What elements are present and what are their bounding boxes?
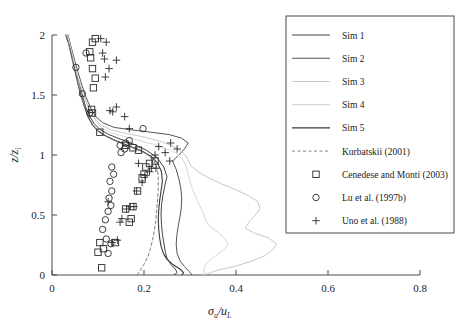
marker-square [87, 49, 93, 55]
marker-square [98, 265, 104, 271]
svg-text:z/zi: z/zi [7, 148, 23, 164]
x-tick-label: 0 [49, 282, 55, 294]
legend-item-label: Sim 1 [342, 31, 365, 41]
marker-circle [102, 217, 108, 223]
legend-item-label: Sim 2 [342, 54, 365, 64]
y-tick-label: 1 [40, 149, 46, 161]
chart-figure: 00.20.40.60.800.511.52σu/uLz/ziSim 1Sim … [0, 0, 455, 323]
x-axis-title: σu/uL [208, 304, 231, 320]
marker-square [90, 85, 96, 91]
x-tick-label: 0.8 [413, 282, 427, 294]
legend-item-label: Kurbatskii (2001) [342, 147, 410, 158]
marker-circle [110, 171, 116, 177]
marker-circle [105, 250, 111, 256]
y-tick-label: 0 [40, 269, 46, 281]
legend-item-label: Sim 4 [342, 100, 365, 110]
y-tick-label: 0.5 [31, 209, 45, 221]
y-tick-label: 2 [40, 29, 46, 41]
legend: Sim 1Sim 2Sim 3Sim 4Sim 5Kurbatskii (200… [286, 16, 454, 233]
marker-circle [107, 178, 113, 184]
series-line-2 [68, 35, 193, 275]
x-tick-label: 0.4 [229, 282, 243, 294]
y-tick-label: 1.5 [31, 89, 45, 101]
marker-circle [109, 188, 115, 194]
svg-text:σu/uL: σu/uL [208, 304, 231, 320]
x-tick-label: 0.6 [321, 282, 335, 294]
scatter-group-1 [87, 35, 159, 271]
legend-item-label: Lu et al. (1997b) [342, 193, 406, 204]
marker-circle [109, 164, 115, 170]
x-tick-label: 0.2 [137, 282, 151, 294]
marker-square [92, 75, 98, 81]
legend-item-label: Sim 5 [342, 123, 365, 133]
plot-area [66, 35, 277, 275]
marker-square [97, 239, 103, 245]
marker-circle [99, 226, 105, 232]
y-axis-title: z/zi [7, 148, 23, 164]
marker-circle [108, 202, 114, 208]
profile-chart-svg: 00.20.40.60.800.511.52σu/uLz/ziSim 1Sim … [0, 0, 455, 323]
marker-circle [103, 236, 109, 242]
series-line-5 [66, 35, 184, 275]
marker-circle [118, 149, 124, 155]
marker-circle [105, 208, 111, 214]
legend-item-label: Cenedese and Monti (2003) [342, 170, 448, 181]
legend-item-label: Sim 3 [342, 77, 365, 87]
marker-square [89, 65, 95, 71]
legend-item-label: Uno et al. (1988) [342, 216, 407, 227]
marker-circle [83, 50, 89, 56]
marker-circle [106, 195, 112, 201]
